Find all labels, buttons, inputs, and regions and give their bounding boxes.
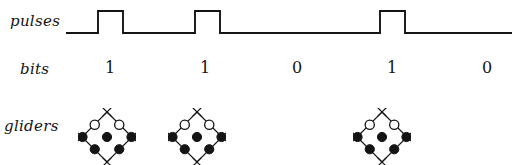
pulse-waveform (0, 0, 512, 60)
filled-circle-icon (78, 132, 87, 141)
x-mark-icon (103, 158, 111, 165)
pulse-waveform-path (66, 11, 512, 33)
open-circle-icon (180, 120, 189, 129)
filled-circle-icon (353, 132, 362, 141)
open-circle-icon (115, 120, 124, 129)
filled-circle-icon (217, 132, 226, 141)
bit-value-0: 1 (95, 58, 125, 77)
bit-value-3: 1 (377, 58, 407, 77)
filled-circle-icon (192, 132, 201, 141)
row-label-gliders: gliders (4, 117, 59, 135)
open-circle-icon (205, 120, 214, 129)
filled-circle-icon (377, 132, 386, 141)
x-mark-icon (103, 108, 111, 116)
x-mark-icon (378, 108, 386, 116)
x-mark-icon (378, 158, 386, 165)
row-label-bits: bits (20, 60, 49, 78)
x-mark-icon (193, 158, 201, 165)
x-mark-icon (193, 108, 201, 116)
glider-0 (78, 108, 136, 165)
bit-value-4: 0 (472, 58, 502, 77)
glider-1 (168, 108, 226, 165)
open-circle-icon (390, 120, 399, 129)
filled-circle-icon (205, 145, 214, 154)
open-circle-icon (365, 120, 374, 129)
filled-circle-icon (127, 132, 136, 141)
filled-circle-icon (115, 145, 124, 154)
filled-circle-icon (390, 145, 399, 154)
filled-circle-icon (180, 145, 189, 154)
filled-circle-icon (90, 145, 99, 154)
filled-circle-icon (102, 132, 111, 141)
filled-circle-icon (402, 132, 411, 141)
glider-2 (353, 108, 411, 165)
bit-value-2: 0 (282, 58, 312, 77)
figure-canvas: pulses bits gliders 11010 (0, 0, 512, 165)
filled-circle-icon (168, 132, 177, 141)
open-circle-icon (90, 120, 99, 129)
bit-value-1: 1 (190, 58, 220, 77)
filled-circle-icon (365, 145, 374, 154)
